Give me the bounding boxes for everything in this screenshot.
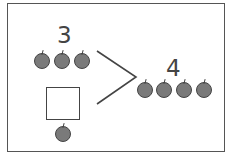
- apple-icon: [176, 82, 192, 98]
- apple-icon: [196, 82, 212, 98]
- apple-icon: [156, 82, 172, 98]
- apple-icon: [137, 82, 153, 98]
- apple-icon: [55, 126, 71, 142]
- composition-bracket: [0, 0, 229, 159]
- answer-box[interactable]: [46, 87, 80, 120]
- whole-number: 4: [166, 57, 181, 80]
